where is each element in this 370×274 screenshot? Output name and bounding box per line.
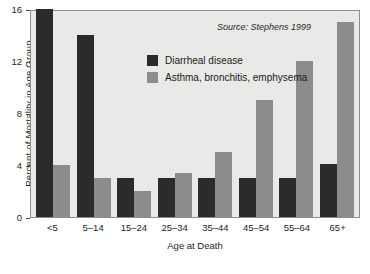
legend-label-series-0: Diarrheal disease [165,55,243,66]
bar-series-0 [279,178,296,217]
bar-group [77,11,111,217]
legend-label-series-1: Asthma, bronchitis, emphysema [165,72,307,83]
x-tick-label: 25–34 [156,222,194,233]
bar-group [117,11,151,217]
x-tick-label: 35–44 [196,222,234,233]
x-tick-label: 65+ [319,222,357,233]
bar-group [320,11,354,217]
plot-area: Diarrheal disease Asthma, bronchitis, em… [30,10,360,218]
bar-series-1 [94,178,111,217]
legend-swatch-icon-series-1 [147,72,158,83]
bar-series-1 [175,173,192,217]
x-axis-title: Age at Death [30,240,360,251]
y-tick-mark [26,218,30,219]
bar-series-0 [320,164,337,217]
bar-group [158,11,192,217]
y-tick-label: 12 [11,57,22,67]
x-tick-label: 15–24 [115,222,153,233]
y-tick-label: 8 [17,109,22,119]
x-tick-label: 5–14 [74,222,112,233]
bar-series-1 [296,61,313,217]
legend: Diarrheal disease Asthma, bronchitis, em… [147,55,307,83]
legend-swatch-icon-series-0 [147,55,158,66]
bar-series-0 [198,178,215,217]
source-note: Source: Stephens 1999 [217,22,311,32]
bar-group [198,11,232,217]
x-tick-label: <5 [33,222,71,233]
y-tick-label: 4 [17,161,22,171]
x-axis-tick-labels: <55–1415–2425–3435–4445–5455–6465+ [30,222,360,233]
bar-group [36,11,70,217]
bar-series-0 [158,178,175,217]
bar-series-1 [53,165,70,217]
bar-series-1 [256,100,273,217]
bar-groups [31,11,359,217]
bar-chart: Percent of Mortality in Age Group 048121… [0,0,370,274]
bar-series-0 [239,178,256,217]
y-tick-label: 16 [11,5,22,15]
bar-series-1 [134,191,151,217]
x-tick-label: 45–54 [237,222,275,233]
bar-series-0 [77,35,94,217]
legend-item-asthma-bronchitis-emphysema: Asthma, bronchitis, emphysema [147,72,307,83]
y-axis-ticks: 0481216 [0,0,30,274]
bar-series-1 [337,22,354,217]
bar-group [239,11,273,217]
bar-group [279,11,313,217]
y-tick-label: 0 [17,213,22,223]
bar-series-0 [117,178,134,217]
bar-series-0 [36,9,53,217]
bar-series-1 [215,152,232,217]
x-tick-label: 55–64 [278,222,316,233]
legend-item-diarrheal-disease: Diarrheal disease [147,55,307,66]
